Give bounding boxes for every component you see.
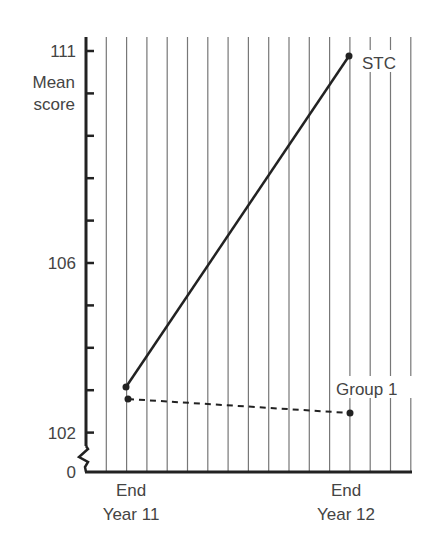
series-stc-point-year12: [346, 53, 353, 60]
series-label-group1: Group 1: [336, 380, 397, 399]
series-group1-line: [128, 399, 350, 413]
x-tick-year11-line1: End: [116, 481, 146, 500]
series-group1-point-year11: [125, 396, 132, 403]
y-axis-label-line2: score: [33, 95, 75, 114]
y-tick-102: 102: [48, 424, 76, 443]
x-tick-year12-line2: Year 12: [317, 505, 375, 524]
series-stc-point-year11: [123, 384, 130, 391]
y-tick-0: 0: [67, 463, 76, 482]
vertical-grid-lines: [106, 37, 411, 472]
y-tick-106: 106: [48, 254, 76, 273]
series-label-stc: STC: [362, 54, 396, 73]
x-tick-year12-line1: End: [331, 481, 361, 500]
x-tick-year11-line2: Year 11: [103, 505, 160, 524]
series-stc-line: [126, 56, 349, 387]
y-axis-label-line1: Mean: [32, 73, 75, 92]
line-chart: 111 Mean score 106 102 0 STC Group 1 End…: [0, 0, 434, 543]
axis-break-icon: [79, 446, 88, 472]
series-group1-point-year12: [347, 410, 354, 417]
y-tick-111: 111: [50, 42, 76, 61]
